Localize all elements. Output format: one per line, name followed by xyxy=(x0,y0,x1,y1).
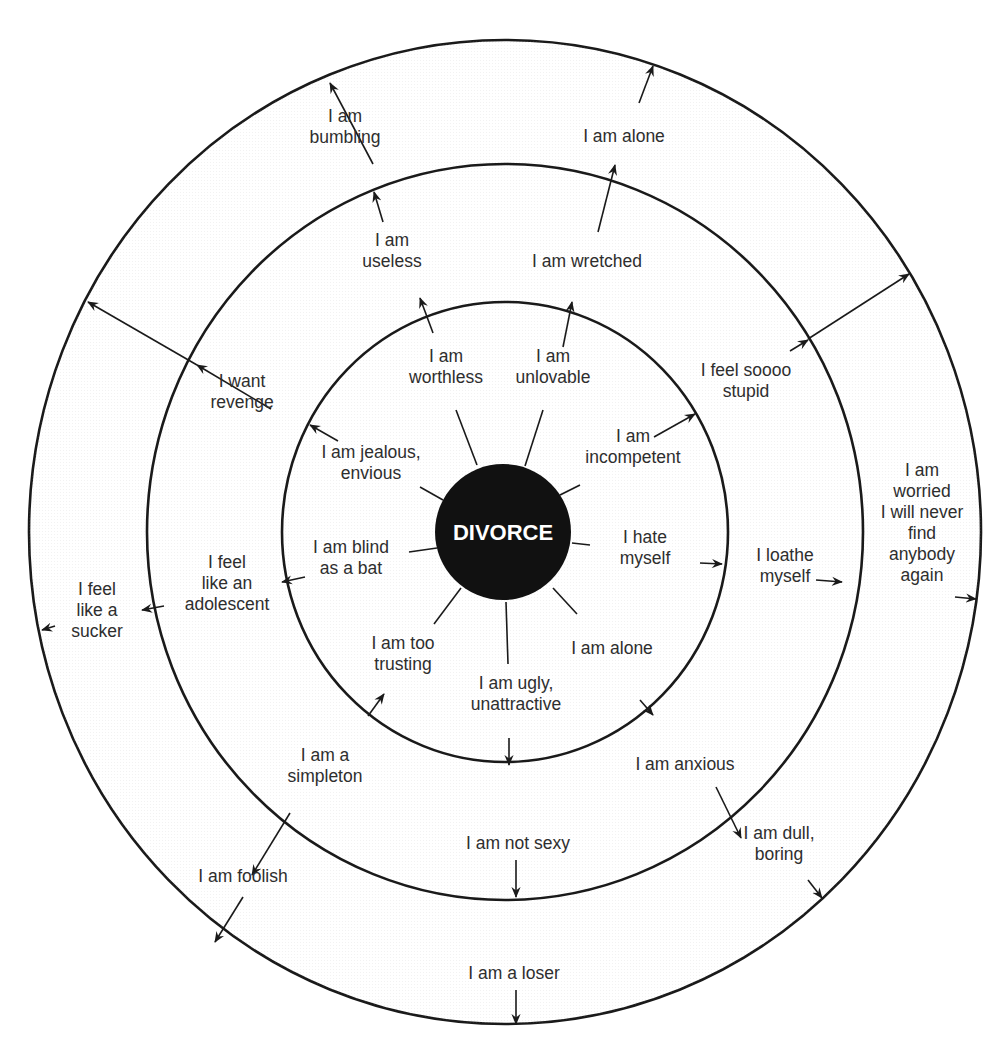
thought-label-foolish: I am foolish xyxy=(198,866,287,886)
arrow-icon xyxy=(700,563,722,564)
thought-label-anxious: I am anxious xyxy=(635,754,734,774)
thought-label-alone-inner: I am alone xyxy=(571,638,653,658)
thought-label-loser: I am a loser xyxy=(468,963,560,983)
thought-label-revenge: I wantrevenge xyxy=(210,371,273,412)
core: DIVORCE xyxy=(435,464,571,600)
center-label: DIVORCE xyxy=(453,520,553,545)
thought-label-loathe-myself: I loathemyself xyxy=(756,545,813,586)
thought-label-ugly: I am ugly,unattractive xyxy=(471,673,561,714)
thought-label-hate-myself: I hatemyself xyxy=(620,527,671,568)
thought-label-sucker: I feellike asucker xyxy=(71,579,123,641)
thought-label-not-sexy: I am not sexy xyxy=(466,833,570,853)
thought-label-too-trusting: I am tootrusting xyxy=(371,633,434,674)
thought-label-wretched: I am wretched xyxy=(532,251,642,271)
thought-label-alone-outer: I am alone xyxy=(583,126,665,146)
divorce-self-talk-diagram: DIVORCE I amworthlessI amunlovableI amin… xyxy=(0,0,1003,1047)
thought-label-blind: I am blindas a bat xyxy=(313,537,389,578)
